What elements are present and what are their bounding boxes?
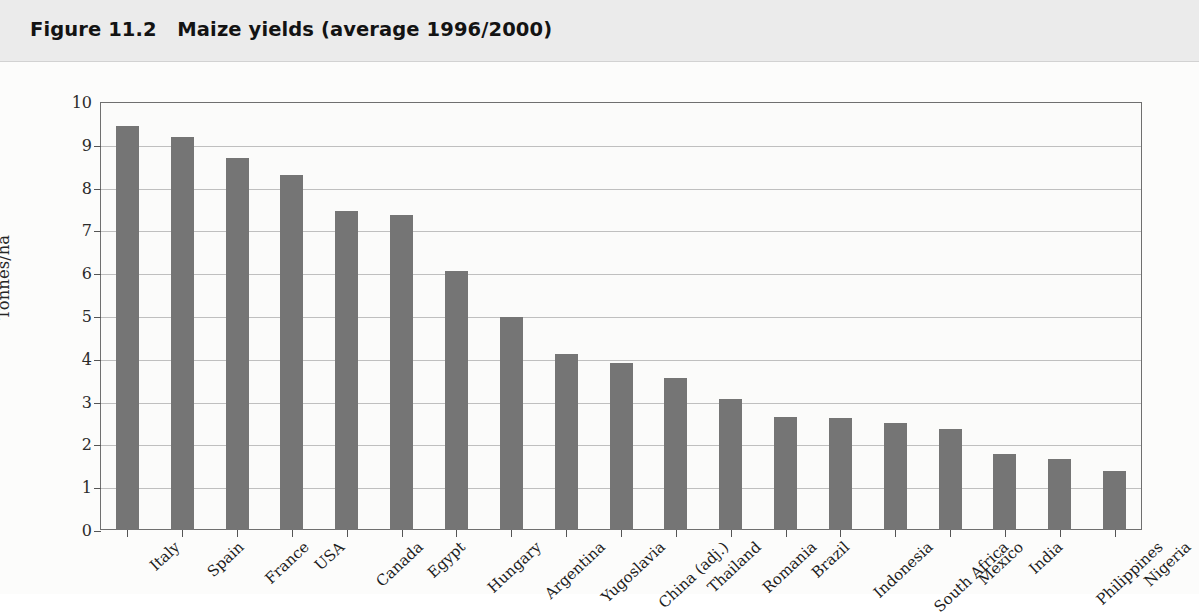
bar [445, 271, 468, 530]
x-tick-mark [182, 530, 183, 537]
x-tick-mark [621, 530, 622, 537]
bar [664, 378, 687, 530]
y-tick-label: 3 [52, 392, 92, 411]
bar [993, 454, 1016, 530]
bar [226, 158, 249, 530]
bar [774, 417, 797, 530]
y-axis-title: Tonnes/ha [0, 235, 13, 320]
x-tick-label: Italy [147, 538, 184, 574]
bar [884, 423, 907, 530]
x-axis-tick-labels: ItalySpainFranceUSACanadaEgyptHungaryArg… [100, 538, 1142, 616]
x-tick-mark [1005, 530, 1006, 537]
y-tick-label: 7 [52, 221, 92, 240]
y-tick-label: 5 [52, 307, 92, 326]
x-tick-mark [1060, 530, 1061, 537]
y-tick-label: 10 [52, 93, 92, 112]
x-tick-label: Spain [204, 538, 248, 581]
y-tick-label: 4 [52, 349, 92, 368]
bar [335, 211, 358, 530]
x-tick-mark [786, 530, 787, 537]
bar [829, 418, 852, 530]
y-tick-label: 2 [52, 435, 92, 454]
x-tick-label: Canada [372, 538, 426, 590]
x-tick-label: France [261, 538, 312, 588]
x-tick-mark [347, 530, 348, 537]
x-tick-label: Hungary [484, 538, 545, 597]
x-tick-label: Egypt [424, 538, 469, 582]
y-tick-label: 0 [52, 521, 92, 540]
bar [116, 126, 139, 530]
x-tick-label: Indonesia [870, 538, 937, 602]
x-tick-mark [731, 530, 732, 537]
x-tick-mark [895, 530, 896, 537]
x-tick-mark [840, 530, 841, 537]
chart-area: Tonnes/ha 012345678910 ItalySpainFranceU… [0, 62, 1199, 594]
y-tick-label: 6 [52, 264, 92, 283]
y-tick-label: 8 [52, 178, 92, 197]
y-tick-label: 1 [52, 478, 92, 497]
bar [939, 429, 962, 530]
bar [719, 399, 742, 530]
bar [171, 137, 194, 530]
bar [1103, 471, 1126, 530]
figure-title: Figure 11.2 Maize yields (average 1996/2… [30, 18, 552, 41]
bar [280, 175, 303, 530]
x-tick-mark [676, 530, 677, 537]
x-tick-label: India [1025, 538, 1066, 578]
bar [555, 354, 578, 530]
x-tick-mark [1115, 530, 1116, 537]
x-tick-label: USA [311, 538, 348, 574]
x-tick-mark [456, 530, 457, 537]
bar [390, 215, 413, 530]
x-axis-tick-marks [100, 530, 1142, 538]
bar [500, 317, 523, 530]
x-tick-mark [292, 530, 293, 537]
bar-series [100, 102, 1142, 530]
bar [610, 363, 633, 530]
bar [1048, 459, 1071, 530]
y-axis-tick-labels: 012345678910 [44, 102, 92, 530]
x-tick-mark [566, 530, 567, 537]
x-tick-mark [950, 530, 951, 537]
y-tick-label: 9 [52, 135, 92, 154]
x-tick-label: South Africa [931, 538, 1013, 616]
x-tick-mark [511, 530, 512, 537]
x-tick-mark [127, 530, 128, 537]
x-tick-mark [237, 530, 238, 537]
x-tick-mark [402, 530, 403, 537]
